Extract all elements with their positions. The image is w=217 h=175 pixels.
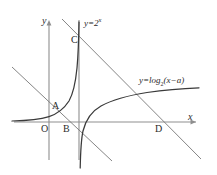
exponential-curve-label-exponent: x xyxy=(99,16,102,23)
exponential-curve-label-text: y=2 xyxy=(84,18,99,28)
origin-label: O xyxy=(41,124,48,134)
point-label-d: D xyxy=(155,124,162,134)
point-label-c: C xyxy=(71,35,78,45)
exponential-curve xyxy=(12,22,79,121)
function-graph-figure xyxy=(0,0,217,175)
point-label-a: A xyxy=(52,101,59,111)
logarithmic-curve-label: y=log2(x−a) xyxy=(139,76,184,87)
exponential-curve-label: y=2x xyxy=(84,17,101,28)
x-axis-label: x xyxy=(188,112,192,122)
logarithmic-curve-label-argument: (x−a) xyxy=(164,75,185,85)
y-axis xyxy=(47,20,52,160)
logarithmic-curve-label-text: y=log xyxy=(139,75,161,85)
point-label-b: B xyxy=(63,124,70,134)
logarithmic-curve xyxy=(80,88,199,168)
y-axis-label: y xyxy=(42,16,46,26)
secant-line-through-a-b xyxy=(12,67,112,161)
